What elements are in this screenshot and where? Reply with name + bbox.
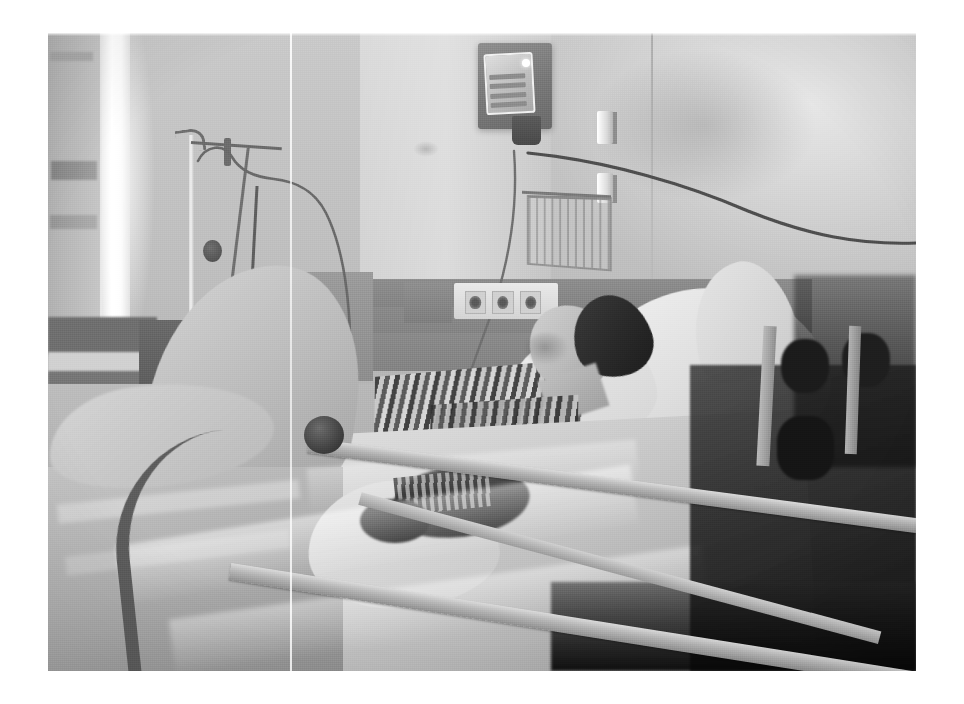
hospital-bed-photograph bbox=[48, 33, 916, 671]
wall-socket bbox=[465, 291, 486, 315]
wall-socket bbox=[520, 291, 541, 315]
scan-line-artifact bbox=[290, 33, 292, 671]
bed-rail-gap bbox=[781, 339, 829, 393]
bed-rail-gap bbox=[777, 416, 833, 480]
patient-face-shadow bbox=[525, 333, 568, 365]
bed-rail-knob bbox=[304, 416, 344, 454]
wall-socket bbox=[492, 291, 513, 315]
top-edge-fade bbox=[48, 33, 916, 36]
page-root: Black and white photograph of a patient … bbox=[0, 0, 964, 704]
wall-service-box bbox=[404, 282, 453, 323]
